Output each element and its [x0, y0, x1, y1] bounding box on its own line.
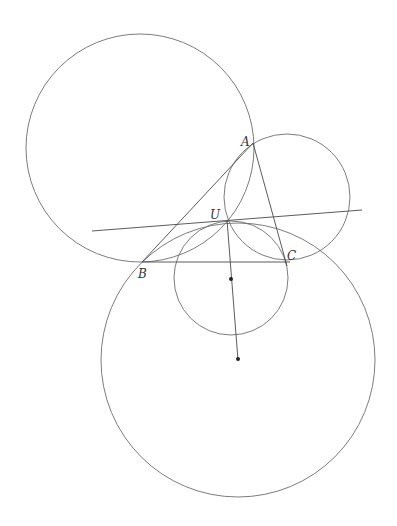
point-label-A: A	[241, 136, 250, 148]
geometry-diagram	[0, 0, 397, 526]
point-label-C: C	[287, 250, 296, 262]
segment-AC	[253, 143, 287, 266]
segment-AB	[142, 143, 253, 262]
point-label-U: U	[210, 209, 220, 221]
circle-through-A-B-U	[26, 34, 254, 262]
large-circle-center	[236, 357, 240, 361]
small-circle-center	[229, 277, 233, 281]
point-label-B: B	[138, 268, 147, 280]
segment-U-to-centers	[227, 220, 238, 360]
